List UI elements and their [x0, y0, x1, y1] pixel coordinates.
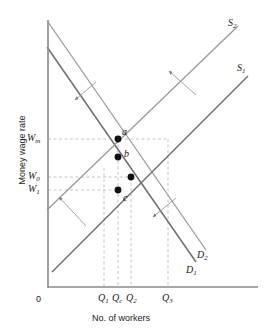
point-e0 — [128, 174, 135, 181]
tick-label-W0-sub: 0 — [36, 175, 40, 183]
curve-label-S2-sub: 2 — [233, 22, 237, 30]
point-a — [115, 136, 122, 143]
tick-label-W1: W1 — [28, 184, 40, 194]
tick-label-Q3: Q3 — [162, 293, 173, 303]
point-label-a: a — [122, 126, 127, 137]
axis-group — [48, 20, 258, 288]
curve-label-D2-sub: 2 — [204, 254, 208, 262]
curve-label-D1-sub: 1 — [193, 269, 197, 277]
guideline-group-horizontal — [48, 139, 168, 190]
curve-label-S2: S2 — [228, 18, 237, 28]
origin-label: 0 — [36, 295, 41, 304]
shift-arrow-demand-lower — [153, 198, 176, 217]
point-label-c: c — [123, 192, 127, 203]
tick-label-Q1-sub: 1 — [105, 297, 109, 305]
tick-label-Q2: Q2 — [126, 293, 137, 303]
tick-label-Q3-sub: 3 — [169, 297, 173, 305]
curve-supply-s1 — [52, 76, 248, 272]
x-axis-label: No. of workers — [92, 313, 150, 323]
point-b — [115, 154, 122, 161]
point-c — [115, 187, 122, 194]
curve-label-D2: D2 — [197, 250, 208, 260]
tick-label-W1-sub: 1 — [36, 188, 40, 196]
shift-arrow-supply-lower — [59, 197, 86, 226]
curve-label-S1-sub: 1 — [242, 67, 246, 75]
tick-label-W0: W0 — [28, 171, 40, 181]
curve-label-S1: S1 — [237, 63, 246, 73]
tick-label-Q2-sub: 2 — [133, 297, 137, 305]
tick-label-Wm: Wm — [27, 133, 40, 143]
tick-label-Qc: Qc — [112, 293, 122, 303]
tick-label-Wm-sub: m — [35, 137, 40, 145]
supply-demand-figure: Money wage rate No. of workers 0 Wm W0 W… — [0, 0, 265, 331]
shift-arrow-supply-upper — [169, 71, 196, 95]
curve-label-D1: D1 — [186, 265, 197, 275]
curve-demand-d2 — [48, 22, 206, 250]
tick-label-Qc-sub: c — [119, 297, 122, 305]
y-axis-label: Money wage rate — [17, 105, 27, 195]
point-label-b: b — [124, 148, 129, 159]
tick-label-Q1: Q1 — [98, 293, 109, 303]
curve-demand-d1 — [47, 47, 196, 262]
point-group — [115, 136, 135, 194]
plot-canvas — [0, 0, 265, 331]
